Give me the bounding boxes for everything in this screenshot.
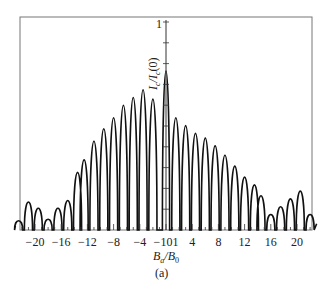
x-tick-label: 12	[239, 235, 251, 249]
x-tick-label: −16	[52, 235, 71, 249]
figure-caption: (a)	[155, 266, 168, 280]
x-tick-label: 8	[215, 235, 221, 249]
y-axis-label: Ic/Ic(0)	[146, 58, 162, 91]
x-tick-label: −20	[26, 235, 45, 249]
x-tick-label: −12	[78, 235, 97, 249]
x-tick-label: −101	[154, 235, 179, 249]
interference-chart: 1 Ic/Ic(0) −20−16−12−8−4−10148121620 Ba/…	[0, 0, 329, 293]
x-tick-label: 20	[291, 235, 303, 249]
x-tick-label: −4	[133, 235, 146, 249]
x-axis-label: Ba/B0	[153, 249, 179, 265]
x-tick-labels: −20−16−12−8−4−10148121620	[26, 235, 303, 249]
x-tick-label: 16	[265, 235, 277, 249]
y-top-tick-label: 1	[156, 17, 162, 31]
x-tick-label: −8	[107, 235, 120, 249]
x-tick-label: 4	[189, 235, 195, 249]
